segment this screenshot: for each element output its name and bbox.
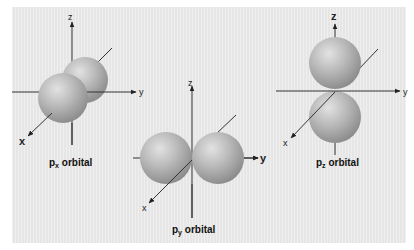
py-lobe-left [140, 132, 192, 184]
py-lobe-right [192, 132, 244, 184]
x-axis-front [28, 113, 52, 136]
z-axis-label: z [331, 10, 337, 22]
y-axis-label: y [403, 87, 408, 97]
x-axis-back [215, 115, 236, 135]
pz-lobe-top [309, 37, 361, 89]
z-axis-label: z [68, 12, 73, 22]
x-axis-label: x [19, 135, 26, 147]
px-lobe-front [38, 73, 88, 123]
pz-orbital-panel: z y x pz orbital [276, 10, 408, 169]
y-axis-label: y [260, 152, 267, 164]
pz-orbital-label: pz orbital [316, 157, 359, 169]
y-axis-label: y [139, 87, 144, 97]
x-axis-label: x [142, 203, 147, 213]
px-orbital-label: px orbital [49, 157, 93, 169]
x-axis-label: x [283, 138, 288, 148]
x-axis-back [358, 49, 378, 70]
px-orbital-panel: z y x px orbital [12, 12, 144, 169]
p-orbitals-diagram: z y x px orbital z y x py orbital z y x … [0, 0, 414, 250]
z-axis-label: z [188, 78, 193, 88]
py-orbital-panel: z y x py orbital [133, 78, 267, 237]
py-orbital-label: py orbital [172, 224, 216, 237]
pz-lobe-bottom [309, 91, 361, 143]
